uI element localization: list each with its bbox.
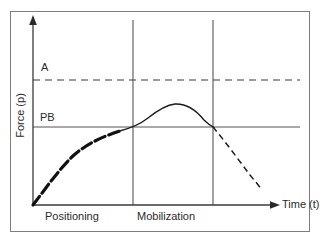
x-axis-arrow-icon xyxy=(270,201,280,209)
curve-segment-decline xyxy=(213,127,262,190)
phase-label-positioning: Positioning xyxy=(45,211,99,222)
reference-label-pb: PB xyxy=(40,112,55,123)
force-time-chart-figure: Force (p) Time (t) A PB Positioning Mobi… xyxy=(0,0,321,246)
x-axis-label: Time (t) xyxy=(282,199,319,210)
y-axis-arrow-icon xyxy=(29,15,37,25)
reference-label-a: A xyxy=(41,62,48,73)
phase-label-mobilization: Mobilization xyxy=(137,211,195,222)
y-axis-label: Force (p) xyxy=(15,81,26,151)
curve-segment-positioning xyxy=(33,131,120,205)
